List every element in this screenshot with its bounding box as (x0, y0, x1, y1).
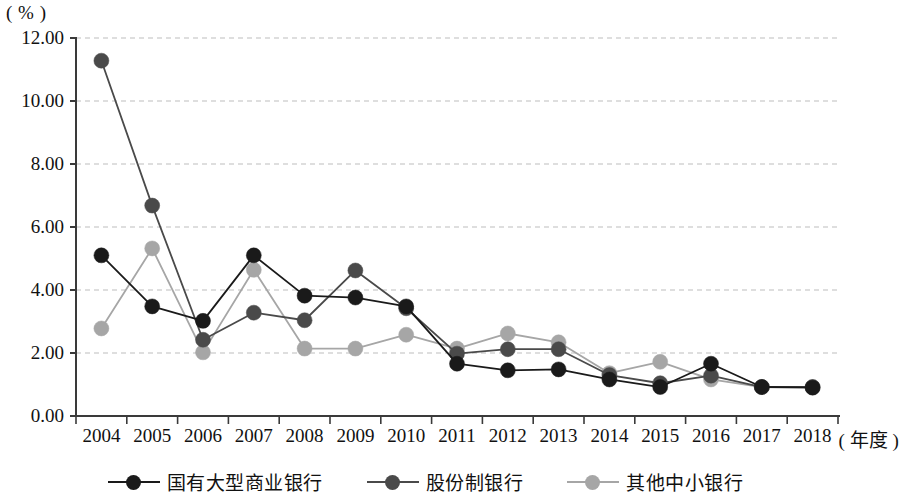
data-point (196, 332, 211, 347)
data-point (246, 248, 261, 263)
legend-marker-icon (367, 475, 419, 489)
data-point (348, 290, 363, 305)
x-tick-label: 2008 (286, 425, 324, 447)
data-point (653, 354, 668, 369)
y-tick-label: 12.00 (0, 27, 64, 49)
x-tick-label: 2018 (794, 425, 832, 447)
legend-item[interactable]: 股份制银行 (367, 468, 524, 495)
data-point (196, 313, 211, 328)
data-point (94, 248, 109, 263)
data-point (94, 321, 109, 336)
data-point (297, 288, 312, 303)
data-point (500, 363, 515, 378)
data-point (246, 262, 261, 277)
data-point (500, 326, 515, 341)
data-point (602, 372, 617, 387)
data-point (145, 198, 160, 213)
data-point (805, 380, 820, 395)
x-tick-label: 2014 (590, 425, 628, 447)
data-point (348, 263, 363, 278)
data-point (653, 380, 668, 395)
legend-label: 国有大型商业银行 (167, 468, 323, 495)
legend-item[interactable]: 其他中小银行 (567, 468, 743, 495)
data-point (145, 299, 160, 314)
legend-marker-icon (108, 475, 160, 489)
data-point (399, 299, 414, 314)
data-point (551, 342, 566, 357)
y-tick-label: 8.00 (0, 153, 64, 175)
x-tick-label: 2011 (438, 425, 475, 447)
y-tick-label: 2.00 (0, 342, 64, 364)
data-point (500, 342, 515, 357)
data-point (297, 313, 312, 328)
x-tick-label: 2013 (540, 425, 578, 447)
x-tick-label: 2005 (133, 425, 171, 447)
x-tick-label: 2012 (489, 425, 527, 447)
data-point (94, 53, 109, 68)
x-tick-label: 2006 (184, 425, 222, 447)
x-tick-label: 2007 (235, 425, 273, 447)
legend-label: 其他中小银行 (626, 468, 743, 495)
x-tick-label: 2004 (82, 425, 120, 447)
x-tick-label: 2015 (641, 425, 679, 447)
data-point (348, 341, 363, 356)
chart-legend: 国有大型商业银行股份制银行其他中小银行 (0, 468, 851, 495)
data-point (450, 356, 465, 371)
data-point (399, 327, 414, 342)
y-axis-unit-label: ( % ) (6, 2, 46, 24)
y-tick-label: 10.00 (0, 90, 64, 112)
data-point (551, 362, 566, 377)
y-tick-label: 4.00 (0, 279, 64, 301)
data-point (297, 341, 312, 356)
x-axis-unit-label: ( 年度 ) (839, 425, 899, 452)
y-tick-label: 6.00 (0, 216, 64, 238)
legend-label: 股份制银行 (426, 468, 524, 495)
data-point (246, 305, 261, 320)
x-tick-label: 2016 (692, 425, 730, 447)
y-tick-label: 0.00 (0, 405, 64, 427)
x-tick-label: 2010 (387, 425, 425, 447)
x-tick-label: 2009 (336, 425, 374, 447)
legend-item[interactable]: 国有大型商业银行 (108, 468, 323, 495)
data-point (704, 356, 719, 371)
legend-marker-icon (567, 475, 619, 489)
data-point (754, 380, 769, 395)
x-tick-label: 2017 (743, 425, 781, 447)
data-point (145, 241, 160, 256)
